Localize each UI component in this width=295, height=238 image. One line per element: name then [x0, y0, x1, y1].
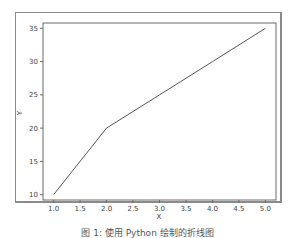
x-tick-label: 1.0: [48, 205, 59, 213]
figure-caption: 图 1: 使用 Python 绘制的折线图: [0, 226, 295, 238]
x-axis-ticks: 1.01.52.02.53.03.54.04.55.0: [48, 200, 271, 213]
y-axis-ticks: 101520253035: [29, 25, 43, 199]
y-tick-label: 15: [29, 158, 38, 166]
data-line: [54, 28, 266, 194]
plot-area: [43, 23, 276, 200]
y-tick-label: 10: [29, 191, 38, 199]
y-tick-label: 20: [29, 125, 38, 133]
y-tick-label: 25: [29, 91, 38, 99]
y-tick-label: 30: [29, 58, 38, 66]
x-tick-label: 1.5: [74, 205, 85, 213]
x-tick-label: 3.5: [180, 205, 191, 213]
x-tick-label: 5.0: [260, 205, 271, 213]
x-tick-label: 4.5: [233, 205, 244, 213]
y-tick-label: 35: [29, 25, 38, 33]
line-chart: 101520253035 1.01.52.02.53.03.54.04.55.0…: [0, 0, 295, 238]
x-axis-label: X: [157, 213, 162, 221]
x-tick-label: 4.0: [207, 205, 218, 213]
x-tick-label: 3.0: [154, 205, 165, 213]
x-tick-label: 2.5: [127, 205, 138, 213]
x-tick-label: 2.0: [101, 205, 112, 213]
y-axis-label: Y: [16, 110, 24, 116]
